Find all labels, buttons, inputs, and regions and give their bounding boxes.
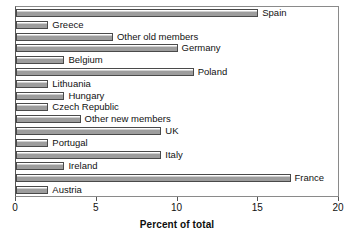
- bar: [16, 186, 48, 194]
- bar: [16, 33, 113, 41]
- bar-row: Ireland: [16, 161, 338, 173]
- x-tick-mark: [96, 197, 97, 201]
- bar: [16, 115, 81, 123]
- bar-label: Poland: [198, 66, 228, 78]
- bar-label: Other old members: [117, 31, 198, 43]
- bar-label: Lithuania: [52, 78, 91, 90]
- bar-row: Austria: [16, 184, 338, 196]
- x-tick-label: 20: [326, 202, 350, 213]
- x-tick-mark: [338, 197, 339, 201]
- bar: [16, 92, 64, 100]
- x-tick-mark: [15, 197, 16, 201]
- bar-label: France: [295, 172, 325, 184]
- bar-row: Portugal: [16, 137, 338, 149]
- bar-label: UK: [165, 125, 178, 137]
- bar: [16, 44, 178, 52]
- bar: [16, 21, 48, 29]
- bar: [16, 174, 291, 182]
- bars-layer: SpainGreeceOther old membersGermanyBelgi…: [16, 7, 338, 196]
- bar-label: Portugal: [52, 137, 87, 149]
- bar-label: Czech Republic: [52, 101, 119, 113]
- bar-label: Spain: [262, 7, 286, 19]
- bar: [16, 68, 194, 76]
- x-tick-label: 10: [165, 202, 189, 213]
- bar-label: Other new members: [85, 113, 171, 125]
- bar: [16, 80, 48, 88]
- bar-row: Spain: [16, 7, 338, 19]
- x-tick-label: 5: [84, 202, 108, 213]
- bar: [16, 127, 161, 135]
- bar-label: Hungary: [68, 90, 104, 102]
- bar-row: Hungary: [16, 90, 338, 102]
- x-axis-title: Percent of total: [0, 219, 354, 230]
- bar-row: Other new members: [16, 113, 338, 125]
- bar-row: Belgium: [16, 54, 338, 66]
- bar-label: Belgium: [68, 54, 102, 66]
- bar: [16, 151, 161, 159]
- x-tick-mark: [257, 197, 258, 201]
- bar-row: Greece: [16, 19, 338, 31]
- bar-row: Czech Republic: [16, 102, 338, 114]
- bar-row: Germany: [16, 42, 338, 54]
- bar-row: UK: [16, 125, 338, 137]
- bar-label: Italy: [165, 149, 182, 161]
- x-tick-mark: [177, 197, 178, 201]
- bar-row: Italy: [16, 149, 338, 161]
- bar: [16, 162, 64, 170]
- bar-label: Germany: [182, 42, 221, 54]
- bar-row: Poland: [16, 66, 338, 78]
- bar-label: Austria: [52, 184, 82, 196]
- bar-label: Greece: [52, 19, 83, 31]
- bar: [16, 9, 258, 17]
- bar-row: France: [16, 172, 338, 184]
- x-tick-label: 0: [3, 202, 27, 213]
- bar: [16, 56, 64, 64]
- bar-chart: SpainGreeceOther old membersGermanyBelgi…: [0, 0, 357, 237]
- x-axis: 05101520: [0, 197, 357, 219]
- bar-row: Lithuania: [16, 78, 338, 90]
- bar: [16, 103, 48, 111]
- bar-label: Ireland: [68, 160, 97, 172]
- bar: [16, 139, 48, 147]
- x-tick-label: 15: [245, 202, 269, 213]
- bar-row: Other old members: [16, 31, 338, 43]
